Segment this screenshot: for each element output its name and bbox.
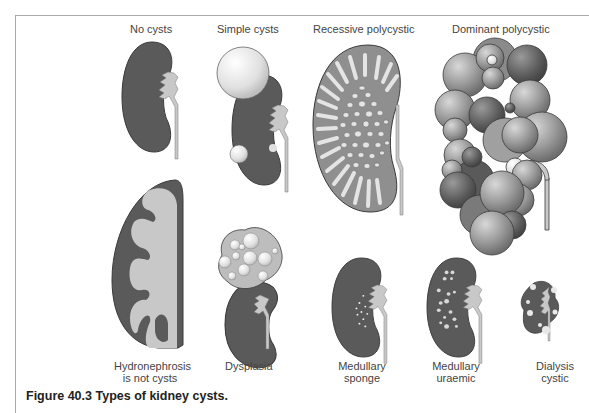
label-line: Dialysis [530,360,580,372]
label-line: cystic [530,372,580,384]
label-hydronephrosis: Hydronephrosis is not cysts [114,360,186,384]
large-cyst [217,47,269,99]
panel-medullary-sponge [332,258,387,363]
label-recessive-polycystic: Recessive polycystic [313,23,414,35]
label-line: uraemic [426,372,486,384]
label-medullary-uraemic: Medullary uraemic [426,360,486,384]
panel-dialysis-cystic [521,281,558,341]
panel-no-cysts [122,42,178,159]
label-line: Medullary [426,360,486,372]
panel-hydronephrosis [112,180,183,348]
figure-caption: Figure 40.3 Types of kidney cysts. [26,389,228,403]
label-line: Medullary [332,360,392,372]
label-medullary-sponge: Medullary sponge [332,360,392,384]
label-dialysis-cystic: Dialysis cystic [530,360,580,384]
panel-medullary-uraemic [427,258,482,363]
label-no-cysts: No cysts [130,23,172,35]
panel-dominant-polycystic [435,38,567,255]
label-dominant-polycystic: Dominant polycystic [452,23,550,35]
label-simple-cysts: Simple cysts [217,23,279,35]
label-line: Hydronephrosis [114,360,186,372]
label-dysplasia: Dysplasia [225,360,273,372]
panel-dysplasia [219,228,283,368]
panel-recessive-polycystic [313,45,403,215]
label-line: is not cysts [114,372,186,384]
panel-simple-cysts [217,47,288,192]
label-line: sponge [332,372,392,384]
kidney-cysts-illustration [0,0,589,413]
